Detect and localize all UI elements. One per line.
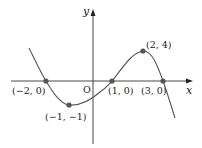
point-label-neg1-neg1: (−1, −1) bbox=[45, 111, 86, 122]
point-label-3-0: (3, 0) bbox=[141, 85, 167, 96]
function-graph: y x O (−2, 0) (−1, −1) (1, 0) (2, 4) (3,… bbox=[0, 0, 202, 148]
function-curve bbox=[29, 48, 175, 118]
point-2-4 bbox=[140, 48, 145, 53]
point-label-1-0: (1, 0) bbox=[108, 85, 134, 96]
point-1-0 bbox=[109, 78, 114, 83]
point-neg1-neg1 bbox=[66, 102, 71, 107]
point-label-2-4: (2, 4) bbox=[146, 39, 172, 50]
point-neg2-0 bbox=[43, 78, 48, 83]
y-axis-label: y bbox=[82, 5, 90, 18]
origin-label: O bbox=[83, 84, 91, 95]
point-3-0 bbox=[160, 78, 165, 83]
y-axis-arrow-icon bbox=[91, 9, 96, 16]
point-label-neg2-0: (−2, 0) bbox=[12, 85, 46, 96]
x-axis-arrow-icon bbox=[186, 79, 193, 84]
x-axis-label: x bbox=[186, 84, 193, 97]
